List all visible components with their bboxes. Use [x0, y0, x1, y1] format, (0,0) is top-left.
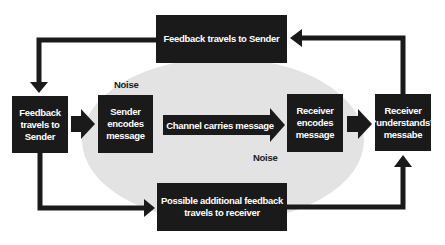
sender-label: Sender encodes message [100, 106, 151, 142]
bottom-feedback-box: Possible additional feedback travels to … [157, 183, 287, 231]
arrow-left-to-sender [71, 109, 95, 139]
receiver-understands-label: Receiver “understands” messabe [372, 105, 435, 141]
arrow-left-feedback-to-bottom [40, 153, 146, 208]
receiver-encodes-box: Receiver encodes message [287, 94, 343, 152]
arrow-receiver-to-top-feedback [300, 38, 403, 94]
sender-box: Sender encodes message [98, 95, 153, 153]
arrow-top-feedback-to-left-feedback [39, 40, 156, 84]
arrow-receiver-encodes-to-understands [347, 109, 372, 139]
receiver-understands-box: Receiver “understands” messabe [375, 94, 431, 151]
noise-label-top: Noise [114, 79, 138, 90]
noise-label-bottom: Noise [253, 152, 277, 163]
left-feedback-label: Feedback travels to Sender [14, 107, 66, 143]
bottom-feedback-label: Possible additional feedback travels to … [159, 195, 285, 219]
left-feedback-box: Feedback travels to Sender [12, 96, 68, 153]
arrow-bottom-to-receiver [287, 165, 403, 207]
top-feedback-label: Feedback travels to Sender [164, 33, 280, 45]
top-feedback-box: Feedback travels to Sender [156, 15, 287, 63]
receiver-encodes-label: Receiver encodes message [289, 105, 341, 141]
channel-label: Channel carries message [166, 115, 274, 135]
